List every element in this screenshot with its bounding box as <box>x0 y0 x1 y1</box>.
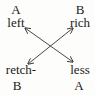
arrows-layer <box>0 0 95 95</box>
double-arrow-rich-to-retch <box>28 28 73 64</box>
crossed-arrows-diagram: A left B rich retch- B less A <box>0 0 95 95</box>
double-arrow-left-to-less <box>25 28 73 62</box>
